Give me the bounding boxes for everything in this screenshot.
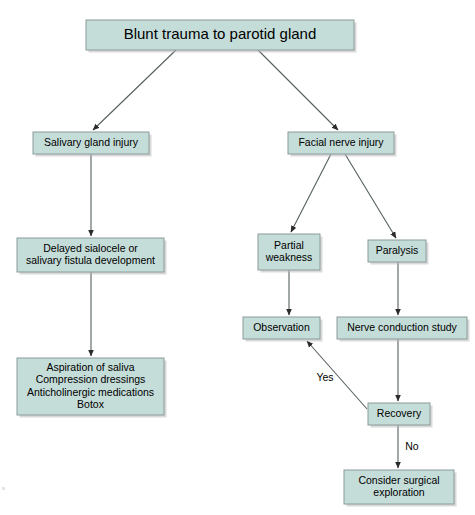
edge-label-recovery-to-observation-yes: Yes [316, 371, 333, 383]
node-label-partial-weakness: Partial [274, 239, 304, 251]
flow-node-facial-nerve-injury: Facial nerve injury [288, 132, 397, 157]
flow-node-salivary-gland-injury: Salivary gland injury [33, 132, 152, 157]
node-label-delayed-sialocele: Delayed sialocele or [43, 242, 138, 254]
node-label-partial-weakness: weakness [265, 251, 313, 263]
node-label-consider-surgical-exploration: exploration [373, 486, 425, 498]
node-label-aspiration-treatments: Anticholinergic medications [27, 386, 154, 398]
node-label-root: Blunt trauma to parotid gland [124, 25, 317, 42]
flow-edge-facial-to-paralysis [345, 154, 396, 238]
node-label-facial-nerve-injury: Facial nerve injury [298, 136, 384, 148]
flow-node-root: Blunt trauma to parotid gland [86, 20, 357, 53]
node-label-delayed-sialocele: salivary fistula development [26, 254, 155, 266]
flow-node-recovery: Recovery [368, 403, 433, 428]
nodes-layer: Blunt trauma to parotid glandSalivary gl… [17, 20, 470, 507]
node-label-observation: Observation [253, 321, 310, 333]
edge-label-recovery-to-surgical-no: No [405, 440, 419, 452]
flow-node-delayed-sialocele: Delayed sialocele orsalivary fistula dev… [17, 238, 167, 275]
flow-node-paralysis: Paralysis [368, 240, 429, 265]
flow-edge-root-to-salivary [93, 50, 176, 130]
node-label-paralysis: Paralysis [376, 244, 419, 256]
node-label-nerve-conduction-study: Nerve conduction study [347, 321, 457, 333]
flowchart-container: Blunt trauma to parotid glandSalivary gl… [0, 0, 475, 515]
flow-node-aspiration-treatments: Aspiration of salivaCompression dressing… [17, 358, 167, 418]
node-label-aspiration-treatments: Aspiration of saliva [46, 361, 134, 373]
node-label-salivary-gland-injury: Salivary gland injury [44, 136, 139, 148]
flow-node-partial-weakness: Partialweakness [258, 234, 323, 273]
node-label-aspiration-treatments: Botox [77, 398, 105, 410]
flowchart-canvas: Blunt trauma to parotid glandSalivary gl… [0, 0, 475, 515]
node-label-recovery: Recovery [377, 407, 422, 419]
edge-artifact-speck [2, 487, 5, 490]
flow-edge-root-to-facial [258, 50, 338, 130]
node-label-consider-surgical-exploration: Consider surgical [358, 474, 439, 486]
node-label-aspiration-treatments: Compression dressings [36, 373, 146, 385]
flow-node-consider-surgical-exploration: Consider surgicalexploration [344, 470, 457, 507]
flow-node-observation: Observation [243, 317, 323, 342]
flow-node-nerve-conduction-study: Nerve conduction study [337, 317, 470, 342]
flow-edge-facial-to-partial [291, 154, 331, 232]
